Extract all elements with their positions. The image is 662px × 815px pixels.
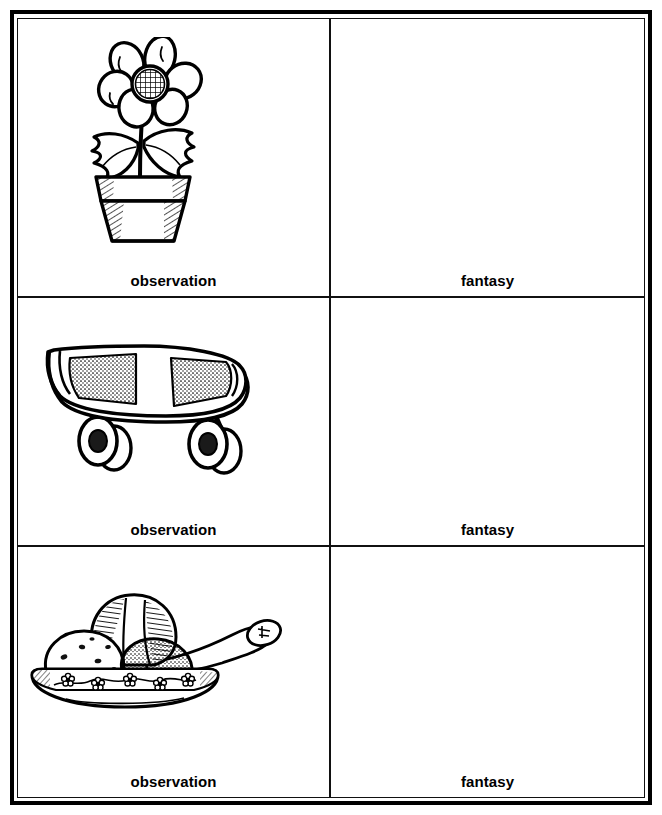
cell-fantasy-skateboard[interactable]: fantasy xyxy=(331,298,644,545)
cell-observation-skateboard[interactable]: observation xyxy=(18,298,329,545)
skateboard-illustration xyxy=(36,320,266,475)
cell-observation-icecream[interactable]: observation xyxy=(18,547,329,797)
ice-cream-bowl-illustration xyxy=(26,585,296,710)
potted-flower-illustration xyxy=(80,37,206,245)
worksheet-grid: observation fantasy xyxy=(18,19,644,797)
cell-fantasy-icecream[interactable]: fantasy xyxy=(331,547,644,797)
cell-label-fantasy: fantasy xyxy=(331,521,644,538)
worksheet-page: observation fantasy xyxy=(0,0,662,815)
cell-fantasy-flower[interactable]: fantasy xyxy=(331,19,644,296)
cell-label-observation: observation xyxy=(18,521,329,538)
cell-label-fantasy: fantasy xyxy=(331,272,644,289)
cell-label-fantasy: fantasy xyxy=(331,773,644,790)
cell-label-observation: observation xyxy=(18,773,329,790)
cell-observation-flower[interactable]: observation xyxy=(18,19,329,296)
cell-label-observation: observation xyxy=(18,272,329,289)
